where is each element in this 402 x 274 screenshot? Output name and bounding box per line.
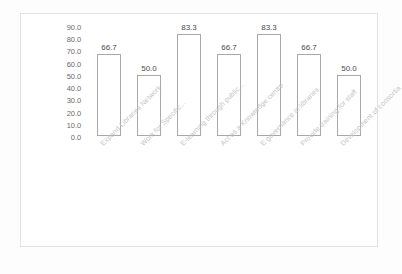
bar (177, 34, 201, 136)
bar-group: 83.3 (177, 34, 201, 136)
chart-figure: 90.080.070.060.050.040.030.020.010.00.0 … (20, 13, 378, 247)
bar-value-label: 66.7 (221, 44, 237, 52)
x-axis-category-labels: Expand Libraries NetworkWork for Specifi… (21, 136, 377, 246)
bar-value-label: 66.7 (101, 44, 117, 52)
bar-value-label: 50.0 (141, 65, 157, 73)
plot-area: 90.080.070.060.050.040.030.020.010.00.0 … (21, 14, 377, 246)
bar-value-label: 66.7 (301, 44, 317, 52)
bar-value-label: 83.3 (261, 24, 277, 32)
bar-value-label: 50.0 (341, 65, 357, 73)
bar-value-label: 83.3 (181, 24, 197, 32)
